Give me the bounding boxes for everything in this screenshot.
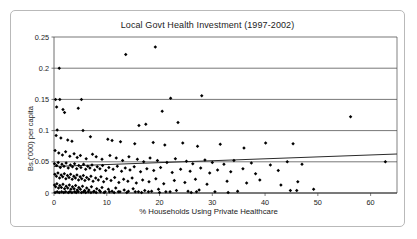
plot-area: 00.050.10.150.20.250102030405060 xyxy=(11,11,406,228)
data-point xyxy=(104,169,108,173)
data-point xyxy=(295,189,299,193)
data-point xyxy=(145,167,149,171)
data-point xyxy=(55,128,59,132)
data-point xyxy=(66,138,70,142)
data-point xyxy=(162,182,166,186)
data-point xyxy=(108,154,112,158)
data-point xyxy=(63,172,67,176)
data-point xyxy=(107,166,111,170)
x-tick-label: 40 xyxy=(261,198,269,207)
data-point xyxy=(93,168,97,172)
data-point xyxy=(199,166,203,170)
data-point xyxy=(185,159,189,163)
x-axis-title: % Households Using Private Healthcare xyxy=(11,207,406,216)
data-point xyxy=(229,170,233,174)
data-point xyxy=(143,189,147,193)
x-tick-label: 10 xyxy=(103,198,111,207)
data-point xyxy=(106,138,110,142)
data-point xyxy=(84,168,88,172)
data-point xyxy=(194,178,198,182)
data-point xyxy=(264,141,268,145)
data-point xyxy=(94,176,98,180)
data-point xyxy=(116,164,120,168)
data-point xyxy=(126,179,130,183)
data-point xyxy=(208,171,212,175)
data-point xyxy=(277,169,281,173)
data-point xyxy=(102,180,106,184)
data-point xyxy=(81,129,85,133)
data-point xyxy=(84,157,88,161)
data-point xyxy=(117,181,121,185)
data-point xyxy=(100,158,104,162)
x-tick-label: 0 xyxy=(52,198,56,207)
y-tick-label: 0.15 xyxy=(35,95,49,104)
data-point xyxy=(95,187,99,191)
data-point-group xyxy=(53,45,387,194)
data-point xyxy=(152,169,156,173)
data-point xyxy=(77,106,81,110)
data-point xyxy=(59,136,63,140)
data-point xyxy=(64,150,68,154)
data-point xyxy=(110,139,114,143)
data-point xyxy=(119,140,123,144)
data-point xyxy=(131,187,135,191)
data-point xyxy=(57,151,61,155)
trend-line xyxy=(54,154,397,166)
data-point xyxy=(56,161,60,165)
data-point xyxy=(312,188,316,192)
data-point xyxy=(242,146,246,150)
data-point xyxy=(289,189,293,193)
data-point xyxy=(122,188,126,192)
y-tick-label: 0.05 xyxy=(35,157,49,166)
data-point xyxy=(69,173,73,177)
data-point xyxy=(218,143,222,147)
data-point xyxy=(127,155,131,159)
data-point xyxy=(97,178,101,182)
data-point xyxy=(132,165,136,169)
data-point xyxy=(189,191,193,195)
data-point xyxy=(285,160,289,164)
data-point xyxy=(165,161,169,165)
data-point xyxy=(175,189,179,193)
data-point xyxy=(154,45,158,49)
data-point xyxy=(141,178,145,182)
data-point xyxy=(148,156,152,160)
data-point xyxy=(89,135,93,139)
data-point xyxy=(349,115,353,119)
data-point xyxy=(196,144,200,148)
data-point xyxy=(140,191,144,195)
data-point xyxy=(70,178,74,182)
data-point xyxy=(163,143,167,147)
y-tick-label: 0.2 xyxy=(39,64,49,73)
data-point xyxy=(70,139,74,143)
data-point xyxy=(91,179,95,183)
data-point xyxy=(279,183,283,187)
data-point xyxy=(176,121,180,125)
data-point xyxy=(159,166,163,170)
y-tick-label: 0 xyxy=(45,189,49,198)
data-point xyxy=(245,181,249,185)
data-point xyxy=(122,178,126,182)
data-point xyxy=(96,165,100,169)
data-point xyxy=(154,177,158,181)
data-point xyxy=(77,178,81,182)
data-point xyxy=(151,141,155,145)
data-point xyxy=(90,163,94,167)
data-point xyxy=(222,163,226,167)
data-point xyxy=(181,141,185,145)
data-point xyxy=(55,105,59,109)
data-point xyxy=(123,166,127,170)
data-point xyxy=(254,172,258,176)
data-point xyxy=(113,176,117,180)
data-point xyxy=(90,185,94,189)
data-point xyxy=(61,153,65,157)
data-point xyxy=(61,108,64,112)
x-tick-label: 30 xyxy=(208,198,216,207)
data-point xyxy=(114,186,118,190)
data-point xyxy=(64,177,68,181)
data-point xyxy=(258,178,262,182)
chart-figure: Local Govt Health Investment (1997-2002)… xyxy=(10,10,405,227)
data-point xyxy=(128,168,132,172)
data-point xyxy=(296,180,300,184)
data-point xyxy=(130,176,134,180)
